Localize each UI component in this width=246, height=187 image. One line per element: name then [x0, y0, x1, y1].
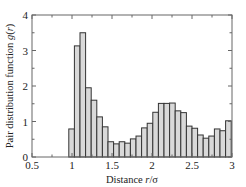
histogram-bar — [186, 126, 192, 157]
y-tick-label: 3 — [23, 45, 29, 57]
histogram-bar — [203, 138, 209, 157]
histogram-bar — [153, 112, 159, 157]
x-tick-label: 2 — [149, 159, 155, 171]
histogram-bar — [130, 139, 136, 157]
y-tick-labels: 01234 — [23, 9, 29, 163]
histogram-bar — [136, 136, 142, 157]
histogram-bar — [97, 117, 103, 157]
x-tick-label: 2.5 — [185, 159, 199, 171]
y-tick-label: 4 — [23, 9, 29, 21]
histogram-bars — [69, 33, 231, 157]
histogram-bar — [147, 123, 153, 157]
x-axis-title: Distance r/σ — [106, 174, 158, 185]
histogram-bar — [214, 129, 220, 157]
histogram-bar — [170, 103, 176, 157]
histogram-bar — [175, 111, 181, 157]
x-tick-labels: 0.511.522.53 — [25, 159, 235, 171]
histogram-bar — [164, 103, 170, 157]
y-tick-label: 2 — [23, 80, 29, 92]
histogram-bar — [102, 127, 108, 157]
histogram-bar — [114, 144, 120, 157]
histogram-bar — [80, 33, 86, 157]
histogram-bar — [192, 128, 198, 157]
histogram-bar — [86, 88, 92, 157]
histogram-bar — [125, 143, 131, 157]
histogram-bar — [69, 129, 75, 157]
histogram-bar — [91, 100, 97, 157]
histogram-bar — [74, 46, 80, 157]
histogram-bar — [220, 131, 226, 157]
histogram-bar — [209, 136, 215, 157]
y-tick-label: 0 — [23, 151, 29, 163]
histogram-bar — [142, 128, 148, 157]
x-tick-label: 1 — [69, 159, 75, 171]
histogram-bar — [198, 135, 204, 157]
y-tick-label: 1 — [23, 116, 29, 128]
pair-distribution-histogram: 0.511.522.53 01234 Distance r/σ Pair dis… — [0, 0, 246, 187]
histogram-bar — [108, 142, 114, 157]
y-axis-title: Pair distribution function g(r) — [4, 23, 16, 148]
histogram-bar — [158, 103, 164, 157]
histogram-bar — [119, 142, 125, 157]
x-tick-label: 3 — [229, 159, 235, 171]
histogram-bar — [181, 113, 187, 157]
x-tick-label: 1.5 — [105, 159, 119, 171]
